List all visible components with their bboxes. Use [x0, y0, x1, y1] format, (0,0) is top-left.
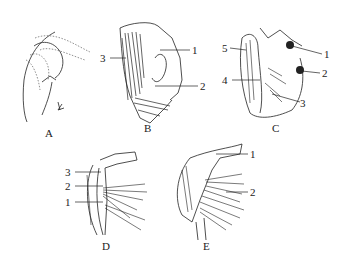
callout-c-4: 4: [222, 75, 228, 86]
callout-c-1: 1: [324, 49, 330, 60]
panel-b: 1 2 3 B: [110, 18, 220, 143]
callout-d-3: 3: [65, 167, 71, 178]
callout-c-5: 5: [222, 43, 228, 54]
callout-e-2: 2: [250, 187, 256, 198]
panel-c: 1 2 3 4 5 C: [220, 18, 340, 143]
rotator-cuff-sketch: [220, 18, 340, 143]
panel-label-d: D: [102, 240, 110, 252]
panel-label-c: C: [272, 122, 279, 134]
panel-label-b: B: [144, 122, 151, 134]
callout-e-1: 1: [250, 149, 256, 160]
callout-b-1: 1: [192, 45, 198, 56]
deep-muscle-sketch: [75, 140, 165, 255]
callout-b-3: 3: [100, 53, 106, 64]
shoulder-surface-sketch: [0, 0, 110, 140]
callout-d-1: 1: [65, 197, 71, 208]
panel-label-e: E: [203, 240, 210, 252]
callout-c-3: 3: [300, 98, 306, 109]
callout-d-2: 2: [65, 181, 71, 192]
panel-e: 1 2 E: [170, 140, 300, 255]
figure-caption-cropped: [0, 252, 340, 262]
panel-label-a: A: [45, 127, 53, 139]
panel-d: 3 2 1 D: [75, 140, 165, 255]
panel-a: A: [0, 0, 110, 140]
callout-c-2: 2: [322, 68, 328, 79]
superficial-muscle-sketch: [170, 140, 300, 255]
callout-b-2: 2: [200, 81, 206, 92]
